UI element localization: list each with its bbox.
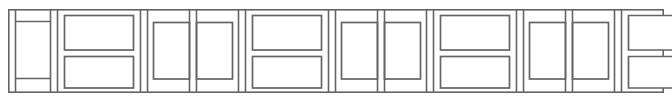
motif-h-truncated-right xyxy=(629,16,672,89)
h7-upper-bar xyxy=(629,16,672,51)
h3-upper-bar xyxy=(253,16,322,51)
motif-h-5 xyxy=(441,10,524,92)
pattern-canvas xyxy=(0,0,672,104)
h5-upper-bar xyxy=(441,16,510,51)
motif-pillars-2 xyxy=(154,10,246,92)
h5-lower-bar xyxy=(441,57,510,89)
motif-h-1 xyxy=(65,10,148,92)
h1-lower-bar xyxy=(65,57,134,89)
p2-right-pillar xyxy=(197,23,233,80)
p4-right-pillar xyxy=(385,23,421,80)
motif-h-truncated-left xyxy=(16,10,58,92)
h3-lower-bar xyxy=(253,57,322,89)
motif-h-3 xyxy=(253,10,336,92)
p6-right-pillar xyxy=(573,23,609,80)
p2-left-pillar xyxy=(154,23,190,80)
p6-left-pillar xyxy=(530,23,566,80)
h1-upper-bar xyxy=(65,16,134,51)
motif-pillars-6 xyxy=(530,10,622,92)
pattern-strip-figure xyxy=(0,0,672,104)
p4-left-pillar xyxy=(342,23,378,80)
h7-lower-bar xyxy=(629,57,672,89)
motif-pillars-4 xyxy=(342,10,434,92)
